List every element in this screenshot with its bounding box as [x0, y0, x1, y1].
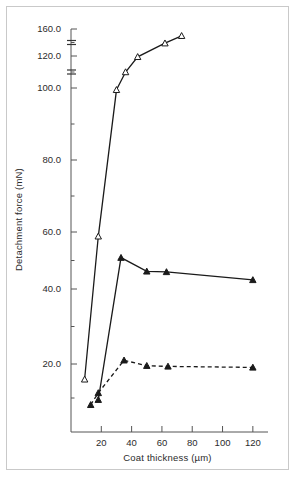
- filled-triangle-dashed-series-marker: [121, 357, 127, 363]
- x-tick-label: 60: [147, 437, 177, 448]
- open-triangle-series-line: [85, 36, 182, 380]
- x-tick-label: 80: [177, 437, 207, 448]
- open-triangle-series-marker: [81, 376, 87, 382]
- axes: [67, 29, 268, 432]
- filled-triangle-solid-series-marker: [118, 254, 124, 260]
- x-tick-label: 20: [86, 437, 116, 448]
- y-tick-label: 80.0: [19, 154, 61, 165]
- y-tick-label: 60.0: [19, 226, 61, 237]
- y-tick-label: 20.0: [19, 358, 61, 369]
- open-triangle-series-marker: [113, 87, 119, 93]
- filled-triangle-dashed-series-line: [91, 360, 253, 405]
- chart-plot-area: [0, 0, 296, 477]
- filled-triangle-dashed-series-marker: [144, 363, 150, 369]
- open-triangle-series-marker: [95, 233, 101, 239]
- open-triangle-series-marker: [134, 54, 140, 60]
- y-axis-label: Detachment force (mN): [13, 150, 24, 290]
- open-triangle-series-marker: [178, 33, 184, 39]
- data-series: [81, 33, 256, 408]
- y-tick-label: 120.0: [19, 50, 61, 61]
- x-tick-label: 40: [117, 437, 147, 448]
- y-tick-label: 40.0: [19, 283, 61, 294]
- open-triangle-series-marker: [162, 40, 168, 46]
- chart-figure: Detachment force (mN) Coat thickness (µm…: [0, 0, 296, 477]
- y-tick-label: 160.0: [19, 23, 61, 34]
- filled-triangle-solid-series-line: [98, 258, 253, 400]
- y-tick-label: 100.0: [19, 82, 61, 93]
- x-tick-label: 100: [208, 437, 238, 448]
- x-axis-label: Coat thickness (µm): [60, 452, 275, 463]
- x-tick-label: 120: [238, 437, 268, 448]
